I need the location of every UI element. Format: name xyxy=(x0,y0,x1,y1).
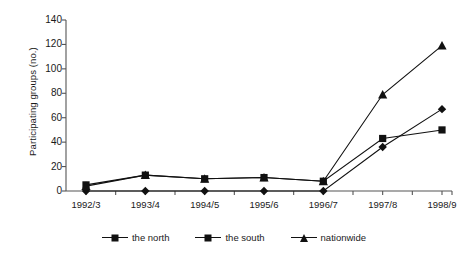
data-point-marker xyxy=(141,187,149,195)
x-tick-label: 1993/4 xyxy=(115,199,175,210)
line-chart: Participating groups (no.) 0204060801001… xyxy=(0,0,468,260)
x-tick-label: 1996/7 xyxy=(293,199,353,210)
x-tick-label: 1995/6 xyxy=(234,199,294,210)
x-tick-label: 1994/5 xyxy=(175,199,235,210)
x-tick-label: 1997/8 xyxy=(353,199,413,210)
legend-label: nationwide xyxy=(321,232,366,243)
legend-item-nationwide: nationwide xyxy=(291,232,366,243)
series-line-nationwide xyxy=(86,46,442,186)
data-point-marker xyxy=(319,187,327,195)
data-point-marker xyxy=(438,105,446,113)
legend-marker-square-icon xyxy=(195,233,221,243)
plot-area xyxy=(0,0,468,260)
legend-marker-triangle-icon xyxy=(291,233,317,243)
legend-item-the-north: the north xyxy=(102,232,170,243)
data-point-marker xyxy=(378,143,386,151)
data-point-marker xyxy=(438,126,445,133)
x-tick-label: 1998/9 xyxy=(412,199,468,210)
legend-label: the north xyxy=(132,232,170,243)
chart-legend: the norththe southnationwide xyxy=(0,232,468,243)
x-tick-label: 1992/3 xyxy=(56,199,116,210)
data-point-marker xyxy=(437,41,446,50)
legend-label: the south xyxy=(225,232,264,243)
series-layer xyxy=(81,41,446,195)
legend-item-the-south: the south xyxy=(195,232,264,243)
axis-lines xyxy=(62,20,452,195)
data-point-marker xyxy=(379,135,386,142)
legend-marker-diamond-icon xyxy=(102,233,128,243)
data-point-marker xyxy=(260,187,268,195)
data-point-marker xyxy=(200,187,208,195)
